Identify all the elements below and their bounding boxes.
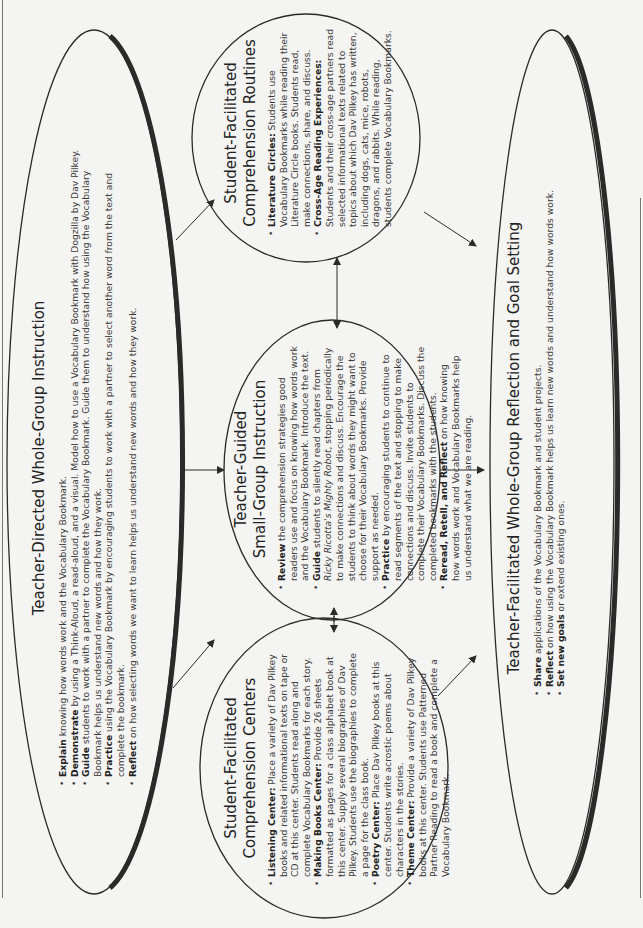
list-item: Cross-Age Reading Experiences: Students … <box>312 28 393 227</box>
list-item: Guide students to work with a partner to… <box>80 128 103 777</box>
comprehension-centers: Student-Facilitated Comprehension Center… <box>222 648 452 888</box>
list-item: Set new goals or extend existing ones. <box>555 168 567 687</box>
list-item: Review the comprehension strategies good… <box>276 346 311 581</box>
arrow-routines-to-reflection <box>424 212 476 246</box>
centers-list: Listening Center: Place a variety of Dav… <box>266 648 452 888</box>
routines-list: Literature Circles: Students use Vocabul… <box>266 28 394 238</box>
small-group-title: Teacher-Guided Small-Group Instruction <box>232 346 270 592</box>
list-item: Demonstrate by using a Think-Aloud, a re… <box>69 128 81 777</box>
reflection-title: Teacher-Facilitated Whole-Group Reflecti… <box>505 168 524 728</box>
list-item: Listening Center: Place a variety of Dav… <box>266 648 312 877</box>
whole-group-list: Explain knowing how words work and the V… <box>57 128 138 788</box>
arrow-to-centers <box>173 640 214 688</box>
list-item: Literature Circles: Students use Vocabul… <box>266 28 312 227</box>
list-item: Making Books Center: Provide 26 sheets f… <box>312 648 370 877</box>
list-item: Reread, Retell, and Reflect on how knowi… <box>438 346 473 581</box>
arrow-to-routines <box>176 200 214 240</box>
list-item: Poetry Center: Place Dav Pilkey books at… <box>370 648 405 877</box>
list-item: Practice by encouraging students to cont… <box>380 346 438 581</box>
small-group-instruction: Teacher-Guided Small-Group Instruction R… <box>232 346 473 592</box>
list-item: Share applications of the Vocabulary Boo… <box>532 168 544 687</box>
routines-title: Student-Facilitated Comprehension Routin… <box>222 28 260 238</box>
diagram-page: Teacher-Directed Whole-Group Instruction… <box>0 0 643 928</box>
list-item: Guide students to silently read chapters… <box>311 346 381 581</box>
list-item: Practice using the Vocabulary Bookmark b… <box>103 128 126 777</box>
page-edge-line-bottom <box>640 198 641 898</box>
centers-title: Student-Facilitated Comprehension Center… <box>222 648 260 888</box>
list-item: Explain knowing how words work and the V… <box>57 128 69 777</box>
comprehension-routines: Student-Facilitated Comprehension Routin… <box>222 28 394 238</box>
page-edge-line-top <box>2 0 3 898</box>
reflection-list: Share applications of the Vocabulary Boo… <box>532 168 567 698</box>
whole-group-title: Teacher-Directed Whole-Group Instruction <box>30 128 49 788</box>
list-item: Theme Center: Provide a variety of Dav P… <box>405 648 451 877</box>
reflection-goal-setting: Teacher-Facilitated Whole-Group Reflecti… <box>505 168 567 728</box>
list-item: Reflect on how using the Vocabulary Book… <box>544 168 556 687</box>
small-group-list: Review the comprehension strategies good… <box>276 346 473 592</box>
whole-group-instruction: Teacher-Directed Whole-Group Instruction… <box>30 128 138 788</box>
list-item: Reflect on how selecting words we want t… <box>127 128 139 777</box>
